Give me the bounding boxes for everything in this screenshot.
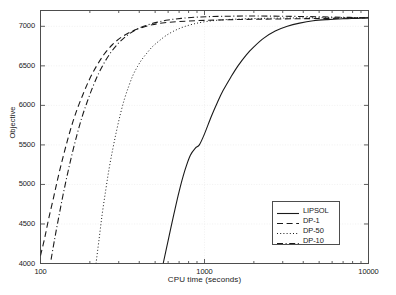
x-axis-label: CPU time (seconds) — [40, 275, 369, 284]
figure-container: Objective CPU time (seconds) 40004500500… — [0, 0, 396, 295]
y-tick-label-6500: 6500 — [1, 61, 35, 70]
y-tick-label-6000: 6000 — [1, 100, 35, 109]
y-tick-label-5000: 5000 — [1, 179, 35, 188]
chart-plot-area — [0, 0, 396, 295]
legend-label: DP-10 — [303, 235, 324, 246]
y-tick-label-7000: 7000 — [1, 21, 35, 30]
x-tick-label-1000: 1000 — [185, 267, 225, 276]
legend-item-dp-10: DP-10 — [273, 235, 341, 246]
chart-legend: LIPSOLDP-1DP-50DP-10 — [272, 201, 340, 245]
legend-swatch-dashdot — [276, 235, 300, 246]
y-tick-label-4500: 4500 — [1, 219, 35, 228]
y-axis-label: Objective — [8, 83, 17, 163]
y-tick-label-5500: 5500 — [1, 140, 35, 149]
x-tick-label-10000: 10000 — [349, 267, 389, 276]
x-tick-label-100: 100 — [21, 267, 61, 276]
